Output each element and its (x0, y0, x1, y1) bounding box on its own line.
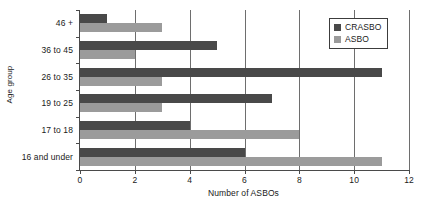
legend-label: CRASBO (345, 22, 382, 32)
bar-crasbo (80, 14, 107, 23)
x-tick-label: 8 (297, 175, 302, 185)
bar-asbo (80, 130, 299, 139)
x-tick-label: 4 (187, 175, 192, 185)
y-tick-mark (76, 90, 80, 91)
bar-asbo (80, 103, 162, 112)
gridline (409, 10, 410, 170)
y-tick-mark (76, 37, 80, 38)
bar-group (80, 63, 409, 90)
legend-swatch-icon (334, 24, 341, 31)
bar-crasbo (80, 94, 272, 103)
y-tick-mark (76, 143, 80, 144)
bar-group (80, 117, 409, 144)
bar-crasbo (80, 121, 190, 130)
category-label: 19 to 25 (10, 90, 76, 117)
chart-legend: CRASBOASBO (329, 18, 388, 49)
category-label: 26 to 35 (10, 63, 76, 90)
category-label: 46 + (10, 10, 76, 37)
x-tick-mark (299, 170, 300, 174)
legend-label: ASBO (345, 34, 369, 44)
x-tick-label: 0 (78, 175, 83, 185)
bar-chart: Age group 46 +36 to 4526 to 3519 to 2517… (0, 0, 421, 208)
x-tick-mark (409, 170, 410, 174)
x-axis-title: Number of ASBOs (79, 188, 408, 198)
x-tick-label: 10 (349, 175, 359, 185)
x-tick-label: 12 (404, 175, 414, 185)
bar-asbo (80, 77, 162, 86)
y-tick-mark (76, 63, 80, 64)
y-tick-mark (76, 117, 80, 118)
legend-swatch-icon (334, 36, 341, 43)
y-tick-mark (76, 10, 80, 11)
x-tick-mark (80, 170, 81, 174)
bar-group (80, 143, 409, 170)
y-tick-mark (76, 170, 80, 171)
x-tick-label: 2 (132, 175, 137, 185)
x-tick-mark (190, 170, 191, 174)
bar-asbo (80, 50, 135, 59)
bar-crasbo (80, 68, 382, 77)
x-tick-mark (354, 170, 355, 174)
bar-asbo (80, 23, 162, 32)
legend-item: CRASBO (334, 21, 382, 33)
bar-crasbo (80, 148, 245, 157)
x-tick-mark (245, 170, 246, 174)
bar-group (80, 90, 409, 117)
category-label: 36 to 45 (10, 37, 76, 64)
category-label: 17 to 18 (10, 117, 76, 144)
bar-crasbo (80, 41, 217, 50)
category-axis-labels: 46 +36 to 4526 to 3519 to 2517 to 1816 a… (10, 10, 76, 170)
x-tick-mark (135, 170, 136, 174)
category-label: 16 and under (10, 143, 76, 170)
bar-asbo (80, 157, 382, 166)
x-tick-label: 6 (242, 175, 247, 185)
legend-item: ASBO (334, 33, 382, 45)
